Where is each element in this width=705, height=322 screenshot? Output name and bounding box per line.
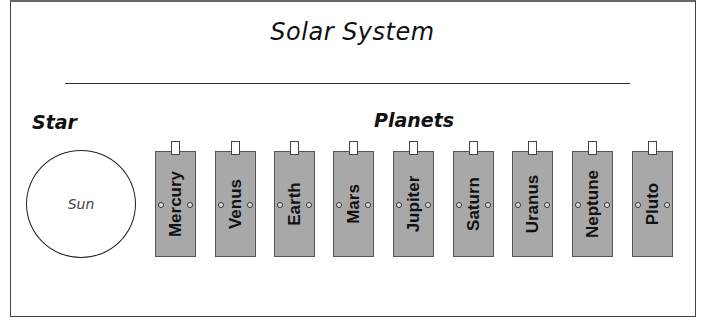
planet-name: Pluto	[643, 183, 663, 226]
star-heading: Star	[32, 111, 77, 133]
hole-icon	[575, 202, 581, 208]
hole-icon	[306, 202, 312, 208]
title-underline	[65, 83, 630, 84]
planet-card-jupiter: Jupiter	[393, 151, 434, 257]
planet-name: Uranus	[523, 175, 543, 234]
planet-card-saturn: Saturn	[453, 151, 494, 257]
card-tab	[171, 141, 180, 155]
planet-card-uranus: Uranus	[512, 151, 553, 257]
planets-heading: Planets	[374, 109, 454, 131]
planet-name: Neptune	[583, 170, 603, 238]
hole-icon	[485, 202, 491, 208]
hole-icon	[158, 202, 164, 208]
hole-icon	[604, 202, 610, 208]
planet-card-earth: Earth	[274, 151, 315, 257]
planet-name: Jupiter	[404, 176, 424, 233]
planet-name: Saturn	[464, 177, 484, 231]
hole-icon	[187, 202, 193, 208]
card-tab	[528, 141, 537, 155]
planet-name: Mars	[344, 184, 364, 224]
planet-name: Earth	[285, 182, 305, 225]
hole-icon	[664, 202, 670, 208]
hole-icon	[277, 202, 283, 208]
planet-name: Venus	[226, 179, 246, 229]
hole-icon	[218, 202, 224, 208]
hole-icon	[544, 202, 550, 208]
hole-icon	[247, 202, 253, 208]
planet-card-neptune: Neptune	[572, 151, 613, 257]
hole-icon	[456, 202, 462, 208]
card-tab	[469, 141, 478, 155]
card-tab	[290, 141, 299, 155]
diagram-title: Solar System	[0, 18, 705, 46]
planet-card-venus: Venus	[215, 151, 256, 257]
sun-label: Sun	[68, 196, 95, 212]
planet-name: Mercury	[166, 171, 186, 237]
hole-icon	[336, 202, 342, 208]
card-tab	[648, 141, 657, 155]
planet-card-pluto: Pluto	[632, 151, 673, 257]
hole-icon	[365, 202, 371, 208]
planet-card-mercury: Mercury	[155, 151, 196, 257]
card-tab	[349, 141, 358, 155]
sun-circle: Sun	[26, 150, 136, 258]
card-tab	[588, 141, 597, 155]
planet-card-mars: Mars	[333, 151, 374, 257]
hole-icon	[396, 202, 402, 208]
card-tab	[231, 141, 240, 155]
hole-icon	[635, 202, 641, 208]
hole-icon	[425, 202, 431, 208]
hole-icon	[515, 202, 521, 208]
card-tab	[409, 141, 418, 155]
